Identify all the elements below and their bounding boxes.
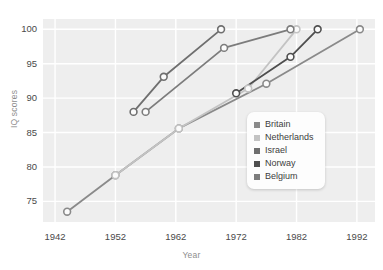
y-axis-tick: 90	[11, 92, 37, 103]
chart-legend: BritainNetherlandsIsraelNorwayBelgium	[247, 112, 325, 189]
x-axis-tick: 1992	[337, 231, 377, 242]
legend-item-label: Belgium	[265, 172, 298, 181]
legend-swatch-icon	[254, 161, 260, 167]
x-axis-tick: 1972	[216, 231, 256, 242]
data-point-marker	[112, 172, 119, 179]
data-point-marker	[287, 26, 294, 33]
legend-swatch-icon	[254, 148, 260, 154]
chart-figure	[0, 0, 383, 270]
data-point-marker	[142, 108, 149, 115]
legend-swatch-icon	[254, 135, 260, 141]
y-axis-tick: 75	[11, 195, 37, 206]
y-axis-tick: 100	[11, 23, 37, 34]
legend-item-norway[interactable]: Norway	[254, 157, 319, 170]
data-point-marker	[357, 26, 364, 33]
legend-item-label: Norway	[265, 159, 296, 168]
data-point-marker	[160, 73, 167, 80]
legend-item-label: Netherlands	[265, 133, 314, 142]
legend-item-netherlands[interactable]: Netherlands	[254, 131, 319, 144]
legend-swatch-icon	[254, 174, 260, 180]
legend-item-britain[interactable]: Britain	[254, 118, 319, 131]
data-point-marker	[175, 125, 182, 132]
data-point-marker	[287, 53, 294, 60]
chart-canvas	[0, 0, 383, 270]
legend-item-israel[interactable]: Israel	[254, 144, 319, 157]
data-point-marker	[314, 26, 321, 33]
x-axis-tick: 1942	[35, 231, 75, 242]
legend-item-belgium[interactable]: Belgium	[254, 170, 319, 183]
y-axis-tick: 95	[11, 58, 37, 69]
data-point-marker	[233, 90, 240, 97]
y-axis-tick: 80	[11, 161, 37, 172]
x-axis-tick: 1952	[95, 231, 135, 242]
data-point-marker	[218, 26, 225, 33]
legend-item-label: Britain	[265, 120, 291, 129]
data-point-marker	[130, 108, 137, 115]
x-axis-label: Year	[0, 250, 383, 260]
data-point-marker	[221, 45, 228, 52]
data-point-marker	[64, 208, 71, 215]
x-axis-tick: 1962	[156, 231, 196, 242]
x-axis-tick: 1982	[277, 231, 317, 242]
y-axis-tick: 85	[11, 127, 37, 138]
data-point-marker	[245, 85, 252, 92]
data-point-marker	[263, 80, 270, 87]
legend-item-label: Israel	[265, 146, 287, 155]
legend-swatch-icon	[254, 122, 260, 128]
